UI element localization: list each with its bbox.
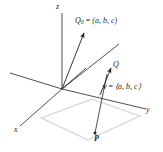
x-axis-label: x (14, 126, 18, 134)
q0-value: (a, b, c) (92, 16, 117, 25)
point-p-label: P (94, 135, 99, 143)
q0-label: Q0 = (a, b, c) (75, 17, 117, 25)
xy-plane-parallelogram (41, 99, 140, 140)
vector-v-label: v = ⟨a, b, c⟩ (103, 83, 141, 91)
v-equals: = (107, 82, 116, 91)
q-label: Q (113, 61, 119, 69)
x-axis (20, 89, 62, 126)
z-axis-label: z (56, 3, 59, 11)
vector-line-diagram: z x y Q0 = (a, b, c) Q v = ⟨a, b, c⟩ P (0, 0, 163, 152)
v-value: ⟨a, b, c⟩ (115, 82, 141, 91)
y-axis-negative (10, 73, 62, 89)
y-axis-label: y (146, 106, 150, 114)
